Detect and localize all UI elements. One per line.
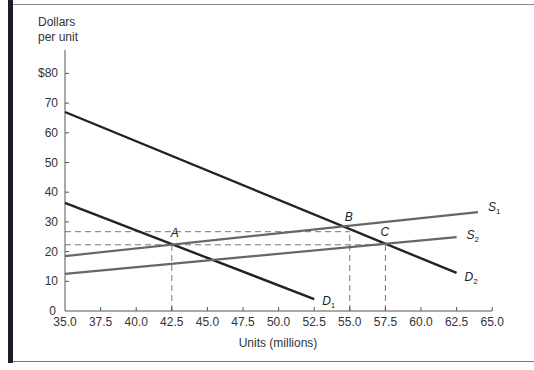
x-tick-label: 40.0 [125,315,149,329]
x-tick-label: 47.5 [231,315,255,329]
curve-label-subscript: 1 [496,207,501,216]
y-tick-label: 40 [45,185,59,199]
x-tick-label: 65.0 [481,315,505,329]
curve-label-s1: S1 [488,200,501,216]
y-tick-label: 60 [45,126,59,140]
x-tick-label: 42.5 [160,315,184,329]
curve-label-d1: D1 [322,294,336,310]
y-tick-label: 30 [45,215,59,229]
x-tick-label: 60.0 [409,315,433,329]
point-label-c: C [380,225,389,239]
x-axis-title: Units (millions) [239,336,318,350]
y-tick-label: 50 [45,156,59,170]
x-tick-label: 57.5 [374,315,398,329]
x-tick-label: 55.0 [338,315,362,329]
curve-label-subscript: 2 [473,277,478,286]
y-tick-label: 10 [45,274,59,288]
curve-label-d2: D2 [465,270,479,286]
point-label-a: A [170,226,179,240]
x-tick-label: 45.0 [196,315,220,329]
x-tick-label: 35.0 [53,315,77,329]
x-tick-label: 37.5 [89,315,113,329]
x-tick-label: 52.5 [303,315,327,329]
y-axis-title: per unit [38,30,79,44]
supply-demand-chart: 010203040506070$8035.037.540.042.545.047… [0,0,534,370]
x-tick-label: 50.0 [267,315,291,329]
curve-label-subscript: 2 [475,235,480,244]
y-tick-label: 70 [45,96,59,110]
y-tick-label: $80 [38,66,58,80]
point-label-b: B [345,210,353,224]
curve-s1 [65,212,478,256]
curve-s2 [65,237,457,274]
curve-label-subscript: 1 [331,301,336,310]
curve-label-s2: S2 [467,228,480,244]
y-tick-label: 20 [45,245,59,259]
x-tick-label: 62.5 [445,315,469,329]
y-axis-title: Dollars [38,15,75,29]
